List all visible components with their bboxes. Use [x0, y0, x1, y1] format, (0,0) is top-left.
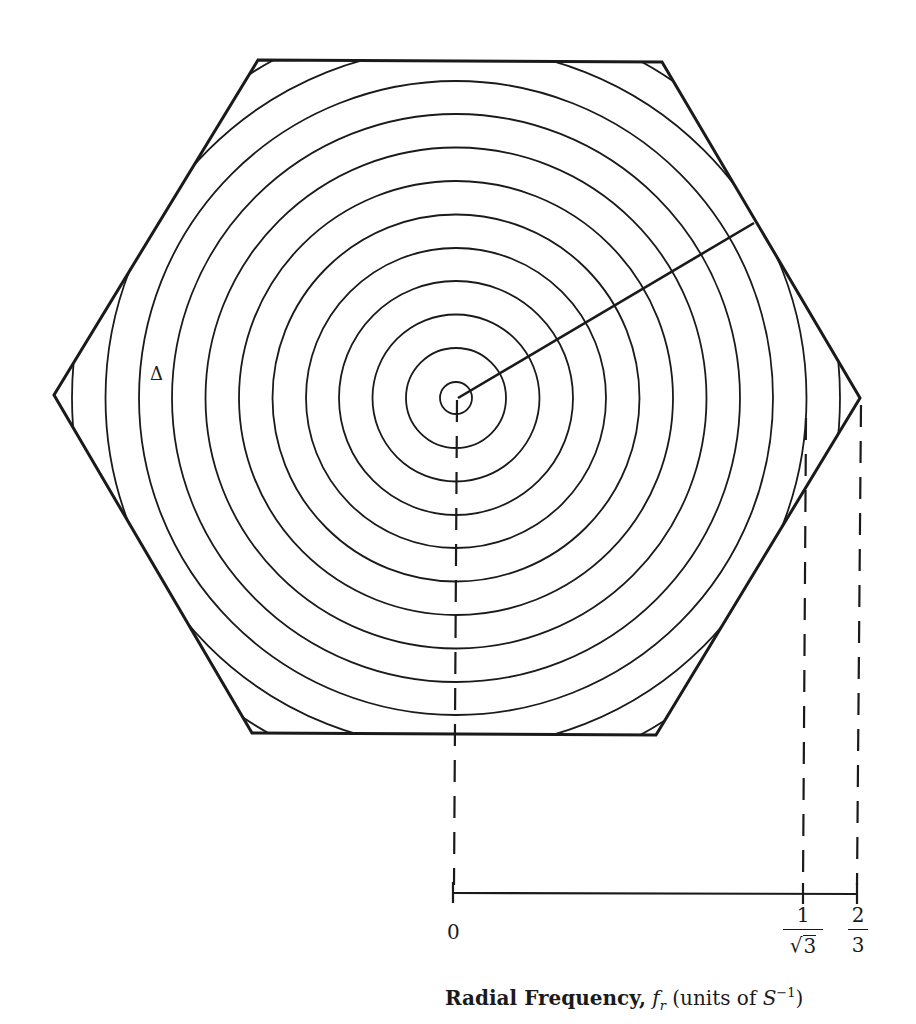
region-delta-symbol: Δ — [150, 363, 163, 384]
tick-label-two-thirds: 2 3 — [848, 905, 868, 955]
x-axis-units-suffix: ) — [796, 986, 804, 1010]
sqrt-symbol: √ — [790, 935, 803, 955]
axis-line — [453, 893, 857, 894]
x-axis-label: Radial Frequency, fr (units of S−1) — [445, 985, 803, 1013]
fraction-denominator: 3 — [852, 930, 865, 955]
x-axis-symbol-sub: r — [660, 998, 666, 1013]
fraction-numerator: 1 — [797, 905, 810, 929]
x-axis-symbol: f — [652, 986, 659, 1010]
dashed-line-two-thirds — [857, 405, 861, 885]
frequency-axis — [453, 882, 857, 904]
hexagonal-frequency-diagram — [0, 0, 916, 1024]
dashed-line-zero — [454, 400, 457, 885]
fraction-numerator: 2 — [852, 905, 865, 929]
tick-label-inv-sqrt3: 1 √3 — [783, 905, 823, 956]
radius-line — [458, 223, 754, 398]
tick-label-zero: 0 — [447, 920, 460, 944]
x-axis-units-prefix: (units of — [672, 986, 756, 1010]
x-axis-units-sup: −1 — [776, 985, 795, 1000]
x-axis-units-symbol: S — [763, 986, 777, 1010]
x-axis-label-title: Radial Frequency, — [445, 986, 646, 1010]
fraction-denominator: √3 — [790, 930, 816, 956]
sqrt-argument: 3 — [803, 935, 817, 956]
